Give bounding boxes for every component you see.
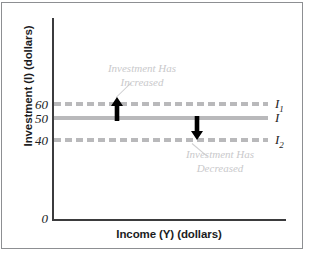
arrow-up-icon — [110, 97, 124, 121]
y-tick-label-60: 60 — [18, 98, 48, 111]
y-tick-label-50: 50 — [18, 112, 48, 125]
annotation-investment-increased: Investment Has Increased — [92, 62, 192, 90]
arrow-down-icon — [190, 116, 204, 140]
investment-function-figure: Investment (I) (dollars) Income (Y) (dol… — [0, 0, 320, 264]
annotation-increased-line1: Investment Has — [92, 62, 192, 76]
curve-label-i: I — [275, 111, 279, 124]
investment-line-i2 — [54, 138, 268, 142]
curve-label-i-text: I — [275, 110, 279, 125]
annotation-decreased-line2: Decreased — [168, 162, 272, 176]
curve-label-i2: I2 — [275, 133, 284, 150]
curve-label-i1-subscript: 1 — [279, 104, 284, 114]
investment-line-i — [54, 116, 268, 120]
x-axis-line — [52, 219, 286, 221]
y-tick-label-40: 40 — [18, 134, 48, 147]
investment-line-i1 — [54, 102, 268, 106]
curve-label-i2-subscript: 2 — [279, 140, 284, 150]
annotation-increased-line2: Increased — [92, 76, 192, 90]
origin-label: 0 — [28, 212, 48, 225]
annotation-investment-decreased: Investment Has Decreased — [168, 148, 272, 176]
x-axis-title: Income (Y) (dollars) — [52, 228, 286, 240]
annotation-decreased-line1: Investment Has — [168, 148, 272, 162]
